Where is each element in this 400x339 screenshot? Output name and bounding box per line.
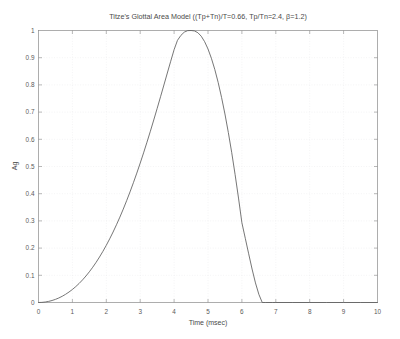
grid-layer — [39, 31, 378, 303]
x-tick-label: 2 — [105, 308, 109, 315]
x-tick-label: 4 — [172, 308, 176, 315]
y-tick-label: 0.6 — [26, 136, 35, 143]
y-tick-label: 0.8 — [26, 81, 35, 88]
y-tick-label: 0.4 — [26, 190, 35, 197]
x-tick-label: 5 — [206, 308, 210, 315]
y-tick-label: 1 — [31, 27, 35, 34]
y-tick-label: 0.9 — [26, 54, 35, 61]
ticklabel-layer: 01234567891000.10.20.30.40.50.60.70.80.9… — [26, 27, 382, 315]
x-tick-label: 8 — [308, 308, 312, 315]
x-tick-label: 3 — [138, 308, 142, 315]
x-tick-label: 7 — [274, 308, 278, 315]
glottal-area-chart: 01234567891000.10.20.30.40.50.60.70.80.9… — [0, 0, 400, 339]
y-tick-label: 0 — [31, 299, 35, 306]
y-tick-label: 0.5 — [26, 163, 35, 170]
y-tick-label: 0.2 — [26, 244, 35, 251]
y-axis-label: Ag — [11, 162, 19, 171]
x-tick-label: 0 — [37, 308, 41, 315]
y-tick-label: 0.7 — [26, 108, 35, 115]
x-tick-label: 1 — [71, 308, 75, 315]
chart-title: Titze's Glottal Area Model ((Tp+Tn)/T=0.… — [109, 12, 307, 21]
x-axis-label: Time (msec) — [189, 319, 228, 327]
figure-container: 01234567891000.10.20.30.40.50.60.70.80.9… — [0, 0, 400, 339]
y-tick-label: 0.3 — [26, 217, 35, 224]
x-tick-label: 10 — [374, 308, 382, 315]
y-tick-label: 0.1 — [26, 272, 35, 279]
x-tick-label: 9 — [342, 308, 346, 315]
x-tick-label: 6 — [240, 308, 244, 315]
